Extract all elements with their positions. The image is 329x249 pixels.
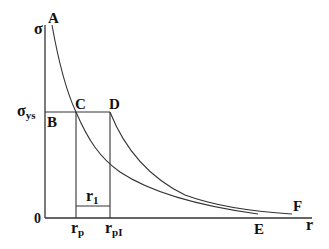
- rpI-subscript: pI: [112, 226, 122, 238]
- rpI-label: rpI: [105, 220, 123, 238]
- x-axis-label: r: [306, 217, 313, 233]
- point-b-label: B: [47, 115, 57, 130]
- point-a-label: A: [48, 11, 59, 26]
- rp-label: rp: [71, 220, 84, 238]
- r1-label: r1: [86, 188, 99, 206]
- yield-stress-label: σys: [17, 103, 35, 121]
- point-f-label: F: [293, 199, 302, 214]
- point-d-label: D: [109, 97, 120, 112]
- yield-stress-subscript: ys: [26, 109, 36, 121]
- stress-diagram: A σ σys B C D r1 0 rp rpI E F r: [0, 0, 329, 249]
- origin-label: 0: [34, 212, 41, 226]
- yield-stress-symbol: σ: [17, 102, 26, 119]
- redistributed-stress-curve: [110, 112, 292, 214]
- elastic-stress-curve: [52, 25, 258, 214]
- point-c-label: C: [75, 97, 86, 112]
- y-axis-label: σ: [34, 21, 43, 37]
- rp-subscript: p: [78, 226, 84, 238]
- point-e-label: E: [254, 222, 264, 237]
- r1-subscript: 1: [93, 194, 99, 206]
